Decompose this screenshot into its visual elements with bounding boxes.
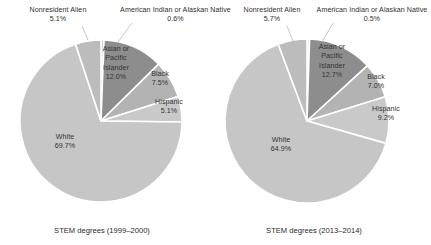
left-nonresident-alien-name: Nonresident Alien: [30, 6, 87, 14]
left-label-nonresident-alien: Nonresident Alien 5.1%: [12, 6, 104, 25]
left-label-hispanic: Hispanic 5.1%: [144, 98, 194, 117]
right-label-black: Black 7.0%: [356, 73, 396, 92]
left-american-indian-name: American Indian or Alaskan Native: [120, 6, 231, 14]
left-asian-name-line1: Asian or: [103, 45, 130, 53]
left-asian-pct: 12.0%: [106, 73, 126, 81]
right-white-name: White: [272, 136, 291, 144]
left-white-pct: 69.7%: [40, 142, 90, 151]
left-black-name: Black: [151, 70, 169, 78]
right-hispanic-name: Hispanic: [372, 105, 400, 113]
right-asian-name-line2: Pacific: [321, 52, 342, 60]
left-white-name: White: [56, 133, 75, 141]
right-label-american-indian: American Indian or Alaskan Native 0.5%: [311, 6, 431, 25]
right-label-white: White 64.9%: [256, 136, 306, 155]
right-white-pct: 64.9%: [256, 145, 306, 154]
right-nonresident-alien-name: Nonresident Alien: [244, 6, 301, 14]
left-label-asian-pacific-islander: Asian or Pacific Islander 12.0%: [93, 45, 139, 83]
left-asian-name-line2: Pacific: [105, 54, 126, 62]
right-pie-panel: Nonresident Alien 5.7% American Indian o…: [216, 0, 431, 245]
left-asian-name-line3: Islander: [103, 64, 129, 72]
right-label-asian-pacific-islander: Asian or Pacific Islander 12.7%: [309, 43, 355, 81]
right-label-hispanic: Hispanic 9.2%: [361, 105, 411, 124]
left-chart-caption: STEM degrees (1999–2000): [2, 226, 202, 235]
stem-degrees-pie-figure: Nonresident Alien 5.1% American Indian o…: [0, 0, 431, 245]
right-label-nonresident-alien: Nonresident Alien 5.7%: [226, 6, 318, 25]
right-chart-caption: STEM degrees (2013–2014): [214, 226, 414, 235]
left-hispanic-name: Hispanic: [155, 98, 183, 106]
left-nonresident-alien-pct: 5.1%: [12, 15, 104, 24]
left-label-white: White 69.7%: [40, 133, 90, 152]
right-american-indian-pct: 0.5%: [311, 15, 431, 24]
right-asian-name-line3: Islander: [319, 62, 345, 70]
left-hispanic-pct: 5.1%: [144, 107, 194, 116]
right-asian-pct: 12.7%: [322, 71, 342, 79]
left-black-pct: 7.5%: [140, 79, 180, 88]
left-pie-panel: Nonresident Alien 5.1% American Indian o…: [0, 0, 215, 245]
right-black-pct: 7.0%: [356, 82, 396, 91]
right-hispanic-pct: 9.2%: [361, 114, 411, 123]
right-asian-name-line1: Asian or: [319, 43, 346, 51]
right-nonresident-alien-pct: 5.7%: [226, 15, 318, 24]
right-black-name: Black: [367, 73, 385, 81]
right-american-indian-name: American Indian or Alaskan Native: [317, 6, 428, 14]
left-label-black: Black 7.5%: [140, 70, 180, 89]
